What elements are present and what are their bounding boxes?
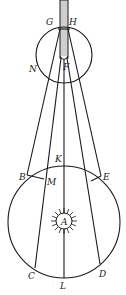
label-e: E <box>102 172 110 182</box>
label-f: F <box>62 62 70 72</box>
label-l: L <box>59 281 66 291</box>
label-g: G <box>46 17 53 27</box>
label-a: A <box>60 217 68 227</box>
label-m: M <box>46 177 57 187</box>
label-c: C <box>28 271 35 281</box>
diagram-canvas: G H N F K B M E A C D L <box>0 0 126 295</box>
label-k: K <box>54 154 63 164</box>
label-h: H <box>68 17 77 27</box>
label-b: B <box>18 172 26 182</box>
label-d: D <box>98 269 106 279</box>
label-n: N <box>28 64 38 74</box>
